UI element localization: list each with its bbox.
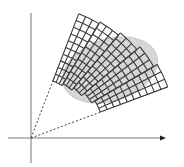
grid-arc-line (79, 14, 99, 24)
grid-arc-line (66, 47, 81, 54)
elliptical-region (54, 25, 166, 114)
gray-ellipse (54, 25, 166, 114)
polar-grid-diagram (0, 0, 184, 167)
upper-bounding-ray (31, 80, 53, 138)
grid-arc-line (71, 34, 88, 42)
grid-arc-line (68, 41, 84, 49)
x-axis-arrow-icon (160, 136, 166, 141)
grid-arc-line (76, 21, 95, 30)
grid-arc-line (74, 27, 92, 36)
lower-bounding-ray (31, 112, 100, 138)
grid-arc-line (100, 22, 119, 35)
